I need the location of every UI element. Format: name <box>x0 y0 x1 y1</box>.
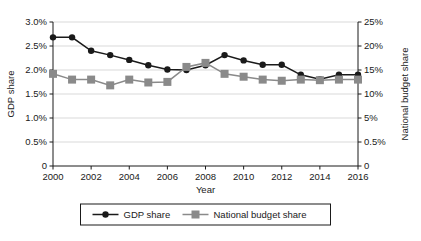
left-axis-tick-label: 0 <box>42 160 47 171</box>
x-axis-group: 200020022004200620082010201220142016 <box>42 166 368 182</box>
data-point-marker <box>68 76 76 84</box>
right-axis-tick-label: 15% <box>364 64 384 75</box>
data-point-marker <box>69 34 75 40</box>
left-axis-tick-label: 3.0% <box>25 16 47 27</box>
data-point-marker <box>335 76 343 84</box>
x-axis-tick-label: 2004 <box>119 171 140 182</box>
left-axis-tick-label: 0.5% <box>25 136 47 147</box>
data-point-marker <box>259 76 267 84</box>
data-point-marker <box>87 76 95 84</box>
data-point-marker <box>88 48 94 54</box>
x-axis-tick-label: 2014 <box>309 171 330 182</box>
data-point-marker <box>144 78 152 86</box>
data-point-marker <box>221 70 229 78</box>
data-point-marker <box>49 70 57 78</box>
series-group <box>49 34 362 89</box>
data-point-marker <box>259 62 265 68</box>
y-axis-title: GDP share <box>5 71 16 118</box>
left-axis-tick-label: 1.0% <box>25 112 47 123</box>
data-point-marker <box>240 73 248 81</box>
data-point-marker <box>50 34 56 40</box>
legend-swatch-marker <box>192 211 200 219</box>
x-axis-tick-label: 2002 <box>81 171 102 182</box>
data-point-marker <box>182 63 190 71</box>
left-axis-tick-label: 1.5% <box>25 88 47 99</box>
x-axis-tick-label: 2016 <box>347 171 368 182</box>
right-axis-group: 00.5%5%10%15%20%25% <box>358 16 386 171</box>
data-point-marker <box>240 57 246 63</box>
legend-swatch-marker <box>102 211 108 217</box>
series-line-gdp <box>53 37 358 79</box>
data-point-marker <box>354 76 362 84</box>
x-axis-tick-label: 2012 <box>271 171 292 182</box>
data-point-marker <box>278 77 286 85</box>
x-axis-title: Year <box>196 184 215 195</box>
x-axis-tick-label: 2008 <box>195 171 216 182</box>
legend-label: National budget share <box>214 209 307 220</box>
right-axis-tick-label: 25% <box>364 16 384 27</box>
left-axis-group: 00.5%1.0%1.5%2.0%2.5%3.0% <box>25 16 53 171</box>
data-point-marker <box>316 76 324 84</box>
x-axis-tick-label: 2000 <box>42 171 63 182</box>
right-axis-tick-label: 10% <box>364 88 384 99</box>
data-point-marker <box>106 81 114 89</box>
data-point-marker <box>145 62 151 68</box>
right-axis-tick-label: 0.5% <box>364 136 386 147</box>
legend-label: GDP share <box>124 209 171 220</box>
data-point-marker <box>107 52 113 58</box>
left-axis-tick-label: 2.0% <box>25 64 47 75</box>
x-axis-tick-label: 2010 <box>233 171 254 182</box>
data-point-marker <box>202 59 210 67</box>
right-axis-tick-label: 20% <box>364 40 384 51</box>
x-axis-tick-label: 2006 <box>157 171 178 182</box>
data-point-marker <box>297 76 305 84</box>
left-axis-tick-label: 2.5% <box>25 40 47 51</box>
data-point-marker <box>279 62 285 68</box>
data-point-marker <box>125 76 133 84</box>
y2-axis-title: National budget share <box>399 48 410 141</box>
data-point-marker <box>163 78 171 86</box>
chart-container: 00.5%1.0%1.5%2.0%2.5%3.0% 00.5%5%10%15%2… <box>0 0 421 241</box>
right-axis-tick-label: 5% <box>364 112 378 123</box>
dual-axis-line-chart: 00.5%1.0%1.5%2.0%2.5%3.0% 00.5%5%10%15%2… <box>0 0 421 241</box>
data-point-marker <box>221 52 227 58</box>
data-point-marker <box>126 57 132 63</box>
right-axis-tick-label: 0 <box>364 160 369 171</box>
data-point-marker <box>164 66 170 72</box>
legend-group: GDP shareNational budget share <box>81 204 331 225</box>
